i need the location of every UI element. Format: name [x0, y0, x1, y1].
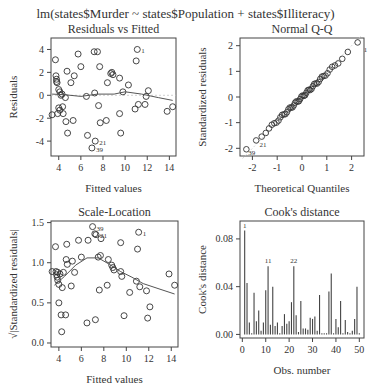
data-point [89, 145, 95, 151]
data-point [85, 237, 91, 243]
data-point [117, 75, 123, 81]
x-tick-label: 0 [240, 344, 245, 355]
data-point [92, 138, 98, 144]
x-tick-label: -2 [248, 162, 256, 173]
point-label: 21 [100, 232, 108, 240]
data-point [164, 108, 170, 114]
y-tick-label: 0.5 [32, 297, 45, 308]
y-tick-label: -2 [225, 143, 233, 154]
y-axis-label: Cook's distance [196, 245, 208, 314]
data-point [144, 288, 150, 294]
data-point [49, 112, 55, 118]
data-point [72, 269, 78, 275]
panel-title: Cook's distance [264, 205, 339, 219]
x-axis-label: Obs. number [274, 364, 331, 376]
data-point [135, 246, 141, 252]
data-point [253, 138, 259, 144]
point-label: 39 [248, 149, 256, 157]
y-tick-label: 2 [228, 40, 233, 51]
bar-label: 11 [265, 257, 272, 265]
data-point [142, 101, 148, 107]
point-label: 1 [364, 46, 368, 54]
point-label: 1 [143, 230, 147, 238]
data-point [64, 241, 70, 247]
data-point [145, 315, 151, 321]
data-point [118, 130, 124, 136]
data-point [103, 117, 109, 123]
x-tick-label: 8 [101, 353, 106, 364]
data-point [355, 40, 361, 46]
data-point [96, 287, 102, 293]
panel-title: Normal Q-Q [272, 22, 333, 36]
x-tick-label: 12 [142, 162, 152, 173]
x-tick-label: 14 [166, 353, 176, 364]
y-tick-label: 0.0 [32, 337, 45, 348]
data-point [121, 313, 127, 319]
data-point [97, 64, 103, 70]
data-point [339, 56, 345, 62]
data-point [166, 271, 172, 277]
y-tick-label: -2 [36, 113, 44, 124]
y-tick-label: 1 [228, 66, 233, 77]
data-point [71, 73, 77, 79]
data-point [90, 224, 96, 230]
data-point [172, 282, 178, 288]
x-axis-label: Fitted values [85, 182, 142, 194]
data-point [63, 312, 69, 318]
x-tick-label: 8 [100, 162, 105, 173]
point-label: 1 [141, 47, 145, 55]
y-tick-label: 0.00 [216, 329, 234, 340]
data-point [104, 80, 110, 86]
x-tick-label: 10 [120, 162, 130, 173]
y-tick-label: 4 [39, 44, 44, 55]
data-point [117, 111, 123, 117]
cooks-distance-panel: Cook's distance010203040500.000.040.08Ob… [196, 205, 364, 376]
data-point [127, 289, 133, 295]
data-point [133, 58, 139, 64]
x-tick-label: 6 [78, 162, 83, 173]
x-tick-label: 4 [56, 162, 61, 173]
data-point [56, 281, 62, 287]
data-point [64, 68, 70, 74]
data-point [104, 282, 110, 288]
scale-location-panel: Scale-Location4681012140.00.51.01.5Fitte… [7, 205, 178, 385]
x-tick-label: 0 [300, 162, 305, 173]
data-point [145, 88, 151, 94]
smoother-line [52, 92, 173, 101]
y-tick-label: 0 [228, 92, 233, 103]
y-tick-label: 2 [39, 67, 44, 78]
normal-qq-panel: Normal Q-Q-2-1012-2-1012Theoretical Quan… [196, 22, 368, 194]
data-point [68, 80, 74, 86]
data-point [96, 103, 102, 109]
data-point [105, 257, 111, 263]
y-tick-label: 0.04 [216, 281, 234, 292]
data-point [69, 258, 75, 264]
y-tick-label: 1.0 [32, 257, 45, 268]
y-tick-label: 0.08 [216, 233, 234, 244]
y-tick-label: 1.5 [32, 217, 45, 228]
data-point [137, 284, 143, 290]
x-tick-label: 40 [331, 344, 341, 355]
data-point [134, 46, 140, 52]
y-axis-label: √|Standardized residuals| [7, 229, 19, 339]
y-tick-label: -4 [36, 136, 44, 147]
data-point [52, 57, 58, 63]
x-tick-label: 30 [308, 344, 318, 355]
x-tick-label: 1 [324, 162, 329, 173]
bar-label: 1 [243, 222, 247, 230]
x-axis-label: Theoretical Quantiles [255, 182, 350, 194]
data-point [135, 101, 141, 107]
x-tick-label: 20 [284, 344, 294, 355]
data-point [76, 237, 82, 243]
data-point [266, 126, 272, 132]
data-point [125, 82, 131, 88]
panel-title: Scale-Location [78, 205, 151, 219]
x-tick-label: 6 [79, 353, 84, 364]
panel-title: Residuals vs Fitted [68, 22, 159, 36]
x-axis-label: Fitted values [86, 373, 143, 385]
data-point [65, 130, 71, 136]
x-tick-label: 10 [261, 344, 271, 355]
plot-frame [51, 221, 178, 347]
residuals-vs-fitted-panel: Residuals vs Fitted468101214-4-2024Fitte… [7, 22, 176, 194]
diagnostic-plots: Residuals vs Fitted468101214-4-2024Fitte… [0, 0, 371, 389]
